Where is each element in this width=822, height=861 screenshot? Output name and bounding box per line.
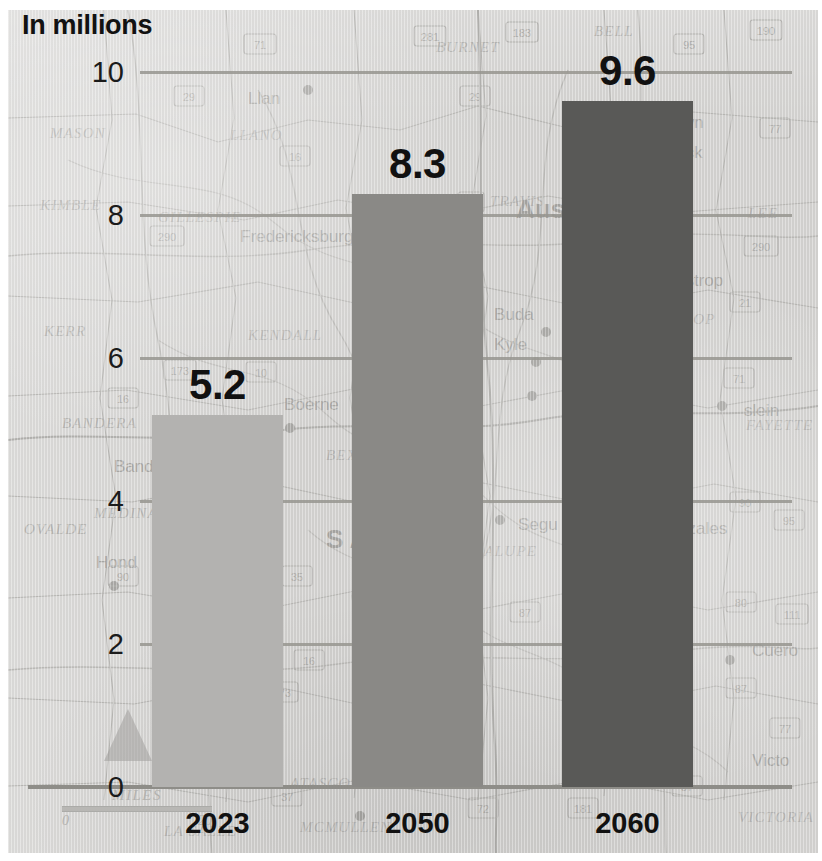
svg-text:Boerne: Boerne [284, 395, 339, 414]
map-scale-units-label: MILES [62, 787, 212, 804]
svg-text:Victo: Victo [752, 751, 790, 770]
svg-text:BANDERA: BANDERA [62, 415, 137, 431]
map-highway-shields: 71 281 183 95 190 29 29 77 16 290 [108, 20, 808, 818]
svg-text:an: an [438, 359, 457, 378]
svg-text:90: 90 [739, 497, 751, 509]
map-rivers [68, 160, 728, 772]
svg-text:KENDALL: KENDALL [247, 327, 322, 343]
svg-text:35: 35 [291, 571, 303, 583]
svg-text:slein: slein [744, 401, 779, 420]
map-scale-end-label: 20 [198, 813, 212, 829]
svg-text:MASON: MASON [49, 125, 106, 141]
svg-text:MEDINA: MEDINA [93, 505, 158, 521]
svg-text:astrop: astrop [676, 271, 723, 290]
svg-text:16: 16 [303, 655, 315, 667]
svg-text:GUADALUPE: GUADALUPE [438, 543, 537, 559]
svg-text:71: 71 [733, 373, 745, 385]
chart-root: MASON LLANO BURNET BELL KIMBLE GILLESPIE… [0, 0, 822, 861]
svg-text:etown: etown [658, 113, 703, 132]
page-title: In millions [22, 10, 152, 41]
svg-text:ATASCOSA: ATASCOSA [289, 775, 370, 791]
svg-text:Cuero: Cuero [752, 641, 798, 660]
compass-north-icon [104, 709, 152, 761]
svg-text:ville: ville [438, 657, 467, 676]
svg-text:21: 21 [739, 297, 751, 309]
svg-text:LEE: LEE [747, 205, 778, 221]
svg-text:rcos: rcos [428, 383, 460, 402]
map-scale-bar: MILES 0 20 [62, 787, 212, 829]
svg-text:181: 181 [574, 803, 592, 815]
svg-text:111: 111 [784, 609, 801, 621]
svg-text:Segu: Segu [518, 515, 558, 534]
svg-text:29: 29 [469, 91, 481, 103]
svg-text:95: 95 [683, 39, 695, 51]
svg-text:35: 35 [465, 197, 477, 209]
svg-text:190: 190 [757, 25, 775, 37]
svg-text:KERR: KERR [43, 323, 86, 339]
svg-text:71: 71 [254, 39, 266, 51]
svg-text:95: 95 [783, 515, 795, 527]
svg-text:10: 10 [255, 367, 267, 379]
svg-text:16: 16 [289, 151, 301, 163]
svg-text:173: 173 [171, 365, 189, 377]
svg-text:72: 72 [477, 803, 489, 815]
svg-text:BASTROP: BASTROP [644, 311, 716, 327]
svg-text:90: 90 [117, 571, 129, 583]
svg-text:LLANO: LLANO [229, 127, 283, 143]
svg-text:S A: S A [326, 524, 369, 554]
map-scale-start-label: 0 [62, 813, 69, 829]
svg-text:VICTORIA: VICTORIA [738, 809, 814, 825]
svg-text:281: 281 [421, 31, 439, 43]
svg-text:290: 290 [752, 241, 770, 253]
svg-text:City: City [414, 747, 444, 766]
svg-text:181: 181 [434, 643, 452, 655]
svg-text:Llan: Llan [248, 89, 280, 108]
map-background: MASON LLANO BURNET BELL KIMBLE GILLESPIE… [8, 10, 818, 853]
svg-text:Karn: Karn [408, 723, 444, 742]
svg-text:MCMULLEN: MCMULLEN [299, 819, 391, 835]
svg-text:87: 87 [681, 781, 693, 793]
svg-text:Aus: Aus [516, 194, 565, 224]
svg-text:GILLESPIE: GILLESPIE [158, 209, 241, 225]
svg-text:87: 87 [735, 683, 747, 695]
svg-text:nzales: nzales [678, 519, 727, 538]
svg-text:Kyle: Kyle [494, 335, 527, 354]
svg-text:29: 29 [183, 91, 195, 103]
svg-text:173: 173 [273, 687, 291, 699]
svg-text:BELL: BELL [594, 23, 634, 39]
svg-text:Hond: Hond [96, 553, 137, 572]
svg-text:BEXAR: BEXAR [326, 447, 378, 463]
svg-text:87: 87 [519, 607, 531, 619]
svg-text:37: 37 [281, 791, 293, 803]
svg-text:ock: ock [676, 143, 703, 162]
svg-text:ville: ville [638, 207, 667, 226]
svg-text:OVALDE: OVALDE [24, 521, 88, 537]
svg-text:77: 77 [769, 123, 781, 135]
svg-text:Fredericksburg: Fredericksburg [240, 227, 353, 246]
svg-text:77: 77 [779, 723, 791, 735]
svg-text:80: 80 [735, 597, 747, 609]
map-scale-rule [62, 806, 212, 812]
svg-text:16: 16 [117, 393, 129, 405]
svg-text:KIMBLE: KIMBLE [39, 197, 101, 213]
svg-text:183: 183 [513, 27, 531, 39]
svg-text:Buda: Buda [494, 305, 534, 324]
svg-text:Band: Band [114, 457, 154, 476]
svg-text:290: 290 [158, 231, 176, 243]
